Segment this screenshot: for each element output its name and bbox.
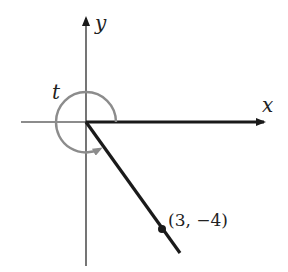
angle-diagram: y x t (3, −4) bbox=[0, 0, 288, 272]
point-label: (3, −4) bbox=[168, 210, 228, 230]
x-axis-label: x bbox=[262, 93, 273, 117]
terminal-side-ray bbox=[86, 122, 180, 253]
angle-label: t bbox=[52, 80, 61, 104]
point-marker bbox=[158, 225, 166, 233]
y-axis-label: y bbox=[94, 11, 107, 35]
